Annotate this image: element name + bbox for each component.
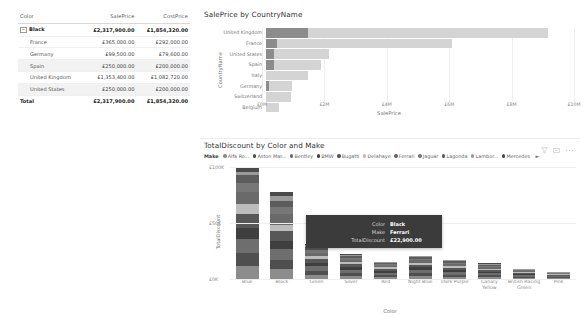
- column-segment[interactable]: [236, 192, 259, 204]
- bar-highlight-segment[interactable]: [266, 49, 274, 59]
- legend-label: Bentley: [294, 153, 313, 159]
- column-segment[interactable]: [270, 231, 293, 241]
- legend-label: Delahaye: [368, 153, 391, 159]
- legend-label: Aston Mar...: [258, 153, 287, 159]
- column-segment[interactable]: [236, 253, 259, 265]
- bar-category-label: Switzerland: [210, 94, 266, 99]
- legend-item[interactable]: Bentley: [290, 153, 313, 159]
- legend-label: Jaguar: [423, 153, 439, 159]
- make-legend[interactable]: MakeAlfa Ro...Aston Mar...BentleyBMWBuga…: [204, 153, 574, 159]
- x-axis-tick: £10M: [568, 102, 581, 107]
- bar-highlight-segment[interactable]: [266, 60, 274, 70]
- legend-item[interactable]: Aston Mar...: [253, 153, 286, 159]
- bar-chart-row[interactable]: United States: [210, 49, 574, 59]
- bar-highlight-segment[interactable]: [266, 81, 269, 91]
- table-row[interactable]: Germany £99,500.00 £79,600.00: [18, 48, 190, 60]
- column-segment[interactable]: [236, 183, 259, 192]
- legend-item[interactable]: Mercedes: [502, 153, 530, 159]
- column-stack[interactable]: [513, 269, 536, 279]
- tooltip-value: Ferrari: [390, 228, 436, 236]
- bar-chart-row[interactable]: Switzerland: [210, 92, 574, 102]
- bar-chart-plot: CountryName United KingdomFranceUnited S…: [200, 26, 578, 114]
- legend-item[interactable]: Jaguar: [418, 153, 438, 159]
- column-chart-category-labels: BlueBlackGreenSilverRedNight BlueDark Pu…: [230, 279, 576, 303]
- total-costprice: £1,854,320.00: [136, 95, 190, 106]
- matrix-body: −Black £2,317,900.00 £1,854,320.00 Franc…: [18, 24, 190, 107]
- bar-track: [266, 39, 574, 49]
- matrix-total-row: Total £2,317,900.00 £1,854,320.00: [18, 95, 190, 106]
- column-segment[interactable]: [270, 249, 293, 260]
- column-header-color[interactable]: Color: [18, 10, 83, 24]
- column-segment[interactable]: [236, 239, 259, 254]
- bar-segment[interactable]: [266, 28, 548, 38]
- tooltip-row: TotalDiscount £22,900.00: [312, 236, 436, 244]
- bar-segment[interactable]: [266, 71, 308, 81]
- column-stack[interactable]: [478, 263, 501, 279]
- matrix-group-label: Black: [29, 26, 44, 32]
- gridline: [574, 28, 575, 102]
- legend-swatch-icon: [502, 154, 505, 157]
- legend-item[interactable]: Bugatti: [337, 153, 359, 159]
- bar-chart-row[interactable]: United Kingdom: [210, 28, 574, 38]
- legend-item[interactable]: Lagonda: [442, 153, 468, 159]
- table-row[interactable]: United Kingdom £1,353,400.00 £1,082,720.…: [18, 72, 190, 84]
- legend-item[interactable]: Alfa Ro...: [223, 153, 249, 159]
- table-row[interactable]: United States £250,000.00 £200,000.00: [18, 83, 190, 95]
- column-header-costprice[interactable]: CostPrice: [136, 10, 190, 24]
- bar-chart-row[interactable]: Spain: [210, 60, 574, 70]
- table-row[interactable]: Spain £250,000.00 £200,000.00: [18, 60, 190, 72]
- bar-chart-row[interactable]: France: [210, 39, 574, 49]
- legend-label: Mercedes: [506, 153, 530, 159]
- legend-swatch-icon: [363, 154, 366, 157]
- bar-highlight-segment[interactable]: [266, 39, 277, 49]
- column-stack[interactable]: [340, 254, 363, 279]
- column-stack[interactable]: [270, 192, 293, 279]
- column-segment[interactable]: [270, 241, 293, 249]
- bar-chart-row[interactable]: Germany: [210, 81, 574, 91]
- bar-category-label: United States: [210, 52, 266, 57]
- column-segment[interactable]: [270, 225, 293, 232]
- x-axis-tick: £2M: [319, 102, 329, 107]
- row-saleprice: £250,000.00: [83, 60, 137, 72]
- legend-swatch-icon: [317, 154, 320, 157]
- bar-segment[interactable]: [266, 81, 292, 91]
- column-category-label: Pink: [541, 279, 576, 303]
- table-row[interactable]: −Black £2,317,900.00 £1,854,320.00: [18, 24, 190, 37]
- column-segment[interactable]: [236, 175, 259, 183]
- x-axis-tick: £0M: [257, 102, 267, 107]
- bar-highlight-segment[interactable]: [266, 28, 308, 38]
- column-category-label: Black: [265, 279, 300, 303]
- bar-chart-row[interactable]: Italy: [210, 71, 574, 81]
- bar-segment[interactable]: [266, 92, 291, 102]
- column-stack[interactable]: [236, 168, 259, 279]
- legend-swatch-icon: [418, 154, 421, 157]
- legend-item[interactable]: BMW: [317, 153, 334, 159]
- column-stack[interactable]: [374, 262, 397, 279]
- expand-collapse-icon[interactable]: −: [20, 27, 27, 34]
- legend-item[interactable]: Lambor...: [471, 153, 498, 159]
- matrix-group-cell[interactable]: −Black: [18, 24, 83, 37]
- table-row[interactable]: France £365,000.00 £292,000.00: [18, 36, 190, 48]
- column-header-saleprice[interactable]: SalePrice: [83, 10, 137, 24]
- matrix-table[interactable]: Color SalePrice CostPrice −Black £2,317,…: [18, 10, 190, 106]
- column-segment[interactable]: [236, 228, 259, 239]
- tooltip-key: Color: [372, 220, 385, 228]
- legend-label: Ferrari: [399, 153, 415, 159]
- legend-item[interactable]: Delahaye: [363, 153, 391, 159]
- column-segment[interactable]: [270, 260, 293, 269]
- bar-segment[interactable]: [266, 49, 329, 59]
- column-segment[interactable]: [270, 269, 293, 279]
- saleprice-by-country-visual[interactable]: SalePrice by CountryName CountryName Uni…: [200, 10, 578, 132]
- legend-item[interactable]: Ferrari: [394, 153, 414, 159]
- column-stack[interactable]: [305, 244, 328, 279]
- column-stack[interactable]: [409, 256, 432, 279]
- column-segment[interactable]: [236, 266, 259, 279]
- column-segment[interactable]: [236, 214, 259, 227]
- column-stack[interactable]: [443, 260, 466, 279]
- column-segment[interactable]: [236, 204, 259, 214]
- legend-next-arrow-icon[interactable]: ►: [535, 153, 539, 159]
- bar-segment[interactable]: [266, 60, 321, 70]
- matrix-grid: Color SalePrice CostPrice −Black £2,317,…: [18, 10, 190, 106]
- bar-segment[interactable]: [266, 39, 452, 49]
- column-segment[interactable]: [270, 207, 293, 214]
